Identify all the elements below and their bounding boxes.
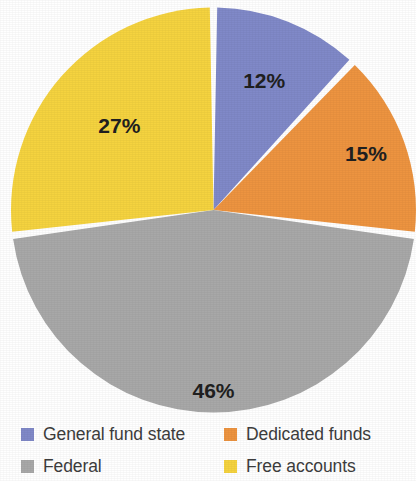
legend-item-general-fund-state[interactable]: General fund state (0, 424, 218, 445)
pie-label-federal: 46% (192, 379, 234, 402)
legend-swatch-general-fund-state (21, 428, 34, 441)
pie-label-dedicated-funds: 15% (345, 142, 387, 165)
chart-legend: General fund state Dedicated funds Feder… (0, 418, 416, 481)
legend-item-dedicated-funds[interactable]: Dedicated funds (218, 424, 416, 445)
pie-plot-area: 12% 15% 46% 27% (0, 0, 416, 418)
pie-label-general-fund-state: 12% (243, 69, 285, 92)
legend-label-federal: Federal (43, 456, 102, 477)
pie-slices (11, 8, 416, 413)
pie-label-free-accounts: 27% (98, 114, 140, 137)
legend-swatch-free-accounts (224, 460, 237, 473)
legend-label-free-accounts: Free accounts (246, 456, 356, 477)
legend-swatch-federal (21, 460, 34, 473)
pie-chart-figure: 12% 15% 46% 27% General fund state Dedic… (0, 0, 416, 481)
legend-item-federal[interactable]: Federal (0, 456, 218, 477)
pie-svg: 12% 15% 46% 27% (0, 0, 416, 418)
legend-label-dedicated-funds: Dedicated funds (246, 424, 371, 445)
legend-swatch-dedicated-funds (224, 428, 237, 441)
legend-label-general-fund-state: General fund state (43, 424, 185, 445)
legend-item-free-accounts[interactable]: Free accounts (218, 456, 416, 477)
